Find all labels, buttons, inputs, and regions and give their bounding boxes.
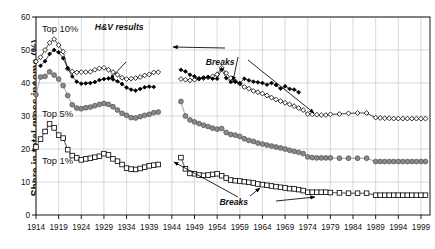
data-point-top-5: [183, 114, 188, 119]
data-point-top-1: [296, 187, 301, 192]
data-point-top-5: [115, 108, 120, 113]
data-point-top-5: [387, 159, 392, 164]
data-point-top-5: [378, 159, 383, 164]
data-point-top-5: [52, 73, 57, 78]
data-point-top-1: [210, 172, 215, 177]
data-point-top-1: [419, 193, 424, 198]
data-point-top-1: [373, 193, 378, 198]
data-point-top-1: [387, 193, 392, 198]
y-tick-label: 30: [21, 112, 31, 121]
data-point-top-1: [410, 193, 415, 198]
data-point-top-1: [65, 147, 70, 152]
annotation-hv-results-label: H&V results: [95, 22, 144, 32]
data-point-top-5: [396, 159, 401, 164]
data-point-top-1: [247, 180, 252, 185]
data-point-top-1: [133, 167, 138, 172]
data-point-top-5: [292, 149, 297, 154]
y-tick-label: 50: [21, 46, 31, 55]
data-point-top-5: [74, 106, 79, 111]
data-point-top-1: [346, 191, 351, 196]
data-point-top-1: [260, 182, 265, 187]
data-point-top-5: [423, 159, 428, 164]
data-point-top-5: [251, 139, 256, 144]
data-point-top-1: [151, 163, 156, 168]
data-point-top-5: [242, 136, 247, 141]
data-point-top-5: [120, 111, 125, 116]
data-point-top-5: [124, 113, 129, 118]
data-point-top-1: [328, 190, 333, 195]
data-point-top-5: [92, 103, 97, 108]
data-point-top-5: [246, 138, 251, 143]
data-point-top-1: [305, 190, 310, 195]
data-point-top-5: [301, 151, 306, 156]
data-point-top-5: [224, 130, 229, 135]
data-point-top-1: [88, 156, 93, 161]
data-point-top-1: [79, 158, 84, 163]
data-point-top-1: [292, 187, 297, 192]
x-tick-label: 1929: [95, 223, 114, 232]
data-point-top-1: [120, 162, 125, 167]
y-tick-label: 20: [21, 145, 31, 154]
data-point-top-5: [405, 159, 410, 164]
y-tick-label: 0: [25, 211, 30, 220]
data-point-top-5: [133, 116, 138, 121]
data-point-top-1: [74, 156, 79, 161]
data-point-top-5: [129, 115, 134, 120]
chart-container: Share in total gross income (%) 01020304…: [0, 0, 435, 249]
data-point-top-1: [233, 178, 238, 183]
data-point-top-1: [111, 157, 116, 162]
x-tick-label: 1999: [412, 223, 431, 232]
data-point-top-5: [319, 156, 324, 161]
data-point-top-5: [65, 93, 70, 98]
x-tick-label: 1954: [208, 223, 227, 232]
data-point-top-5: [38, 75, 43, 80]
data-point-top-5: [233, 133, 238, 138]
data-point-top-5: [70, 102, 75, 107]
data-point-top-5: [156, 110, 161, 115]
annotation-breaks-lower-label: Breaks: [219, 197, 248, 207]
annotation-breaks-upper-label: Breaks: [206, 57, 235, 67]
data-point-top-1: [142, 165, 147, 170]
data-point-top-5: [61, 83, 66, 88]
annotation-top5-label: Top 5%: [42, 108, 73, 119]
data-point-top-5: [151, 110, 156, 115]
data-point-top-1: [401, 193, 406, 198]
data-point-top-1: [93, 155, 98, 160]
data-point-top-1: [274, 184, 279, 189]
data-point-top-5: [400, 159, 405, 164]
data-point-top-5: [287, 148, 292, 153]
data-point-top-1: [355, 191, 360, 196]
data-point-top-1: [38, 137, 43, 142]
chart-svg: 0102030405060191419191924192919341939194…: [0, 0, 435, 249]
data-point-top-1: [228, 178, 233, 183]
data-point-top-1: [156, 162, 161, 167]
y-tick-label: 60: [21, 13, 31, 22]
data-point-top-1: [56, 133, 61, 138]
data-point-top-5: [147, 112, 152, 117]
data-point-top-1: [278, 185, 283, 190]
data-point-top-5: [269, 144, 274, 149]
data-point-top-1: [314, 190, 319, 195]
data-point-top-1: [310, 190, 315, 195]
data-point-top-5: [210, 126, 215, 131]
data-point-top-1: [124, 166, 129, 171]
data-point-top-1: [102, 151, 107, 156]
data-point-top-1: [224, 176, 229, 181]
data-point-top-5: [314, 156, 319, 161]
data-point-top-5: [111, 104, 116, 109]
data-point-top-1: [84, 157, 89, 162]
data-point-top-1: [179, 155, 184, 160]
data-point-top-5: [138, 114, 143, 119]
x-tick-label: 1994: [389, 223, 408, 232]
x-tick-label: 1984: [344, 223, 363, 232]
data-point-top-5: [391, 159, 396, 164]
data-point-top-5: [88, 105, 93, 110]
annotation-top1-label: Top 1%: [42, 155, 73, 166]
data-point-top-5: [83, 105, 88, 110]
data-point-top-1: [147, 164, 152, 169]
data-point-top-5: [355, 156, 360, 161]
data-point-top-1: [219, 173, 224, 178]
data-point-top-1: [396, 193, 401, 198]
data-point-top-5: [179, 99, 184, 104]
data-point-top-5: [237, 134, 242, 139]
